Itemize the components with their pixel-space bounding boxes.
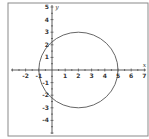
x-axis-label: x (143, 61, 147, 68)
y-axis-label: y (54, 3, 59, 11)
x-tick-label: 1 (63, 72, 67, 79)
y-tick-label: 1 (45, 53, 49, 60)
y-tick-label: -1 (42, 79, 49, 86)
y-tick-label: -2 (42, 91, 49, 98)
x-tick-label: -2 (22, 72, 29, 79)
x-tick-label: 6 (129, 72, 133, 79)
x-tick-label: -1 (35, 72, 42, 79)
x-tick-label: 2 (76, 72, 80, 79)
x-tick-label: 3 (90, 72, 94, 79)
y-tick-label: 4 (45, 16, 49, 23)
x-tick-label: 7 (142, 72, 146, 79)
y-tick-label: -3 (42, 104, 49, 111)
y-tick-label: 3 (45, 28, 49, 35)
x-tick-label: 4 (103, 72, 107, 79)
y-tick-label: 2 (45, 41, 49, 48)
x-tick-label: 5 (116, 72, 120, 79)
y-tick-label: 5 (45, 3, 49, 10)
plot-frame (8, 3, 148, 136)
graph-canvas: -2-1123456754321-1-2-3-4xy (0, 0, 149, 139)
y-tick-label: -4 (42, 116, 49, 123)
